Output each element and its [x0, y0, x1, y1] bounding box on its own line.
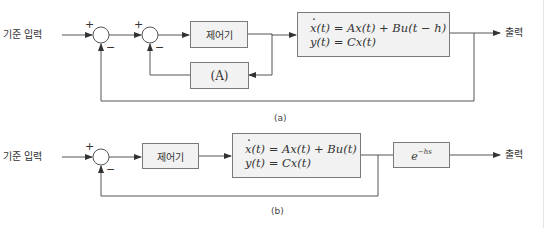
- b-j1-minus-sign: −: [106, 165, 115, 175]
- a-caption: (a): [274, 113, 287, 123]
- b-controller-block: 제어기: [142, 143, 199, 169]
- b-controller-label: 제어기: [157, 149, 184, 164]
- b-delay-label: e−hs: [411, 148, 431, 163]
- b-plant-state-equation: x(t) = Ax(t) + Bu(t): [245, 142, 357, 156]
- a-output-label: 출력: [505, 27, 523, 39]
- b-input-label: 기준 입력: [3, 151, 42, 163]
- a-j1-minus-sign: −: [106, 43, 115, 53]
- a-plant-state-equation: x(t) = Ax(t) + Bu(t − h): [310, 21, 446, 35]
- a-j2-plus-sign: +: [134, 20, 143, 30]
- page-edge-divider: [543, 0, 544, 228]
- b-j1-plus-sign: +: [85, 142, 94, 152]
- a-inner-feedback-to-A: [249, 34, 272, 75]
- a-block-A-label: (A): [210, 69, 228, 83]
- a-plant-block: x(t) = Ax(t) + Bu(t − h) y(t) = Cx(t): [297, 12, 450, 57]
- b-output-label: 출력: [505, 149, 523, 161]
- a-j2-minus-sign: −: [155, 43, 164, 53]
- b-plant-output-equation: y(t) = Cx(t): [245, 156, 357, 170]
- a-plant-output-equation: y(t) = Cx(t): [310, 35, 446, 49]
- a-j1-plus-sign: +: [85, 20, 94, 30]
- a-controller-label: 제어기: [206, 27, 233, 42]
- a-controller-block: 제어기: [190, 21, 248, 48]
- b-caption: (b): [271, 206, 284, 216]
- b-plant-block: x(t) = Ax(t) + Bu(t) y(t) = Cx(t): [232, 133, 361, 178]
- b-delay-block: e−hs: [393, 142, 450, 168]
- a-input-label: 기준 입력: [3, 29, 42, 41]
- block-diagram-canvas: [0, 0, 546, 228]
- a-block-A: (A): [190, 62, 249, 89]
